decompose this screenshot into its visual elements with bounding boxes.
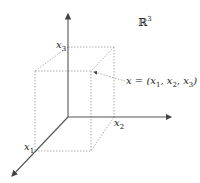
- point-annotation: x = (x1, x2, x3): [126, 76, 197, 89]
- axis-label-x2: x2: [114, 118, 124, 131]
- diagram-canvas: ℝ3 x3 x2 x1 x = (x1, x2, x3): [0, 0, 200, 183]
- axes-and-box: [0, 0, 200, 183]
- axis-label-x3: x3: [56, 40, 66, 53]
- space-label: ℝ3: [138, 16, 152, 28]
- axis-label-x1: x1: [24, 142, 34, 155]
- point-pointer-arrow: [94, 72, 125, 81]
- coordinate-box: [35, 47, 114, 151]
- axes: [12, 14, 171, 176]
